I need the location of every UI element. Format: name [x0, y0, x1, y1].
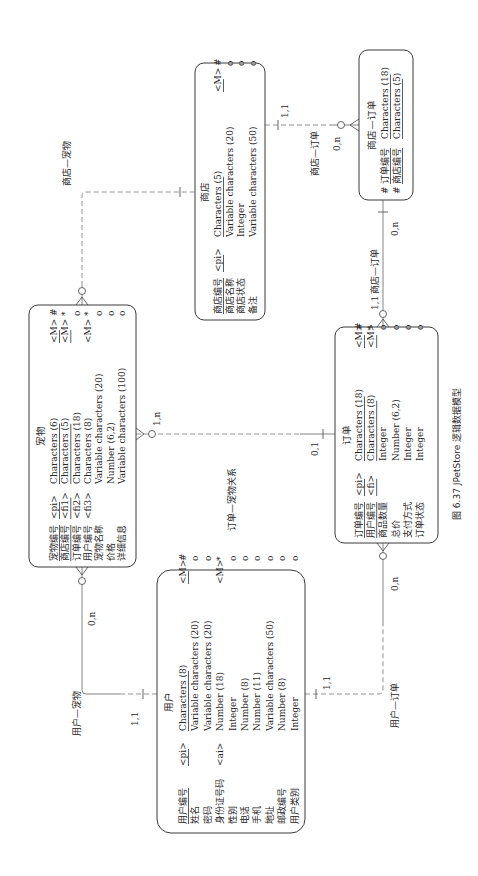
attribute-type: Characters (8)	[178, 665, 188, 731]
attribute-flag: o	[106, 311, 116, 316]
attribute-type: Variable characters (20)	[203, 620, 213, 732]
attribute-flag: *	[83, 311, 93, 316]
rel-user-order: 1,1 0,n 用户—订单	[305, 543, 400, 728]
attribute-flag: *	[366, 325, 376, 330]
entity-order[interactable]: 订单 订单编号<pi>Characters (18)<M>#用户编号<fi>Ch…	[335, 322, 438, 543]
attribute-type: Integer	[403, 427, 413, 461]
attribute-key: <ai>	[215, 743, 225, 766]
attribute-flag: o	[228, 556, 238, 561]
attribute-name: 订单状态	[414, 502, 425, 538]
attribute-flag: o	[290, 556, 300, 561]
entity-store-order-rows: 订单编号Characters (18)#商店编号Characters (5)#	[379, 67, 403, 194]
attribute-name: 订单编号	[353, 502, 364, 538]
attribute-flag: #	[354, 322, 364, 330]
attribute-type: Number (8)	[277, 678, 287, 731]
attribute-type: Number (18)	[215, 672, 225, 731]
attribute-type: Characters (8)	[366, 395, 376, 461]
attribute-flag: o	[415, 325, 425, 330]
attribute-type: Characters (8)	[83, 418, 93, 484]
attribute-type: Characters (6)	[49, 418, 59, 484]
optional-circle	[79, 578, 86, 585]
attribute-flag: #	[392, 186, 402, 194]
optional-circle	[149, 431, 156, 438]
rel-store-pet: 商店—宠物	[61, 141, 195, 305]
entity-user[interactable]: 用户 用户编号<pi>Characters (8)<M>#姓名Variable …	[157, 553, 305, 833]
attribute-name: 邮政编号	[276, 788, 287, 824]
attribute-name: 用户编号	[365, 502, 376, 538]
attribute-flag: o	[190, 556, 200, 561]
rel-label: 用户—订单	[389, 683, 400, 728]
attribute-flag: o	[252, 556, 262, 561]
attribute-key: <pi>	[178, 742, 188, 766]
cardinality-pet: 0,n	[87, 611, 97, 626]
attribute-type: Integer	[290, 697, 300, 731]
cardinality-store: 1,1	[280, 104, 290, 118]
attribute-key: <pi>	[49, 495, 59, 519]
attribute-key: <fi>	[366, 475, 376, 496]
cardinality-pet: 1,n	[152, 411, 162, 426]
attribute-name: 身份证号码	[214, 779, 225, 824]
er-diagram: 商店—宠物 1,n 0,1 订单—宠物关系 1,1 0,n 商店—订单	[0, 0, 478, 876]
attribute-name: 商店编号	[212, 278, 223, 314]
attribute-flag: *	[60, 311, 70, 316]
attribute-type: Variable characters (50)	[265, 620, 275, 732]
attribute-type: Number (11)	[252, 672, 262, 731]
attribute-type: Integer	[236, 203, 246, 237]
attribute-name: 价格	[105, 543, 116, 561]
attribute-flag: o	[117, 311, 127, 316]
attribute-flag: o	[94, 311, 104, 316]
attribute-type: Characters (18)	[380, 67, 390, 139]
entity-title: 用户	[163, 692, 174, 712]
attribute-flag: #	[49, 308, 59, 316]
rel-store-pet-dash	[82, 192, 195, 286]
attribute-flag: o	[403, 325, 413, 330]
attribute-name: 地址	[264, 806, 275, 824]
attribute-flag: o	[277, 556, 287, 561]
cardinality-link: 0,n	[390, 221, 400, 236]
attribute-name: 商店编号	[391, 148, 402, 184]
attribute-key: <fi3>	[83, 492, 93, 519]
attribute-name: 姓名	[189, 806, 200, 824]
attribute-type: Characters (5)	[213, 171, 223, 237]
attribute-flag: o	[391, 325, 401, 330]
attribute-key: <pi>	[213, 248, 223, 272]
rel-link-order: 0,n 1,1 商店—订单	[369, 200, 400, 327]
attribute-type: Number (8)	[240, 678, 250, 731]
optional-circle	[380, 311, 387, 318]
attribute-key: <fi2>	[72, 492, 82, 519]
entity-store-order[interactable]: 商店—订单 订单编号Characters (18)#商店编号Characters…	[359, 50, 413, 200]
attribute-name: 宠物编号	[48, 525, 59, 561]
attribute-key: <pi>	[354, 472, 364, 496]
attribute-type: Variable characters (20)	[190, 620, 200, 732]
attribute-name: 用户编号	[177, 788, 188, 824]
optional-circle	[380, 553, 387, 560]
rel-user-pet: 0,n 1,1 用户—宠物	[71, 567, 157, 736]
entity-pet[interactable]: 宠物 宠物编号<pi>Characters (6)<M>#商店编号<fi1>Ch…	[29, 305, 136, 567]
attribute-name: 用户编号	[82, 525, 93, 561]
attribute-flag: #	[178, 553, 188, 561]
attribute-mandatory: <M>	[215, 560, 225, 584]
attribute-flag: #	[213, 58, 223, 66]
attribute-name: 总价	[390, 520, 401, 538]
attribute-mandatory: <M>	[49, 319, 59, 343]
attribute-type: Variable characters (20)	[94, 373, 104, 485]
attribute-flag: o	[248, 61, 258, 66]
attribute-name: 宠物名称	[93, 525, 104, 561]
attribute-name: 电话	[239, 806, 250, 824]
attribute-type: Characters (18)	[354, 389, 364, 461]
attribute-flag: o	[240, 556, 250, 561]
optional-circle	[338, 122, 345, 129]
attribute-name: 手机	[251, 806, 262, 824]
attribute-mandatory: <M>	[213, 68, 223, 92]
attribute-type: Variable characters (100)	[117, 368, 127, 485]
entity-store[interactable]: 商店 商店编号<pi>Characters (5)<M>#商店名称Variabl…	[195, 58, 265, 320]
rel-store-link: 1,1 0,n 商店—订单	[265, 104, 359, 176]
attribute-row: 订单编号Characters (18)#	[379, 67, 391, 194]
cardinality-order: 0,1	[310, 442, 320, 456]
attribute-name: 详细信息	[116, 525, 127, 561]
attribute-mandatory: <M>	[60, 319, 70, 343]
rel-label: 商店—订单	[309, 131, 320, 176]
rel-label: 商店—宠物	[61, 141, 72, 186]
attribute-flag: o	[203, 556, 213, 561]
attribute-type: Number (6,2)	[391, 399, 401, 461]
